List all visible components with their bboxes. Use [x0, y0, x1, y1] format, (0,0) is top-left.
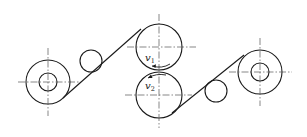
- rewind-roll: [229, 38, 292, 106]
- nip-roller-pair: v1 v2: [125, 14, 196, 128]
- web-left-segment: [63, 29, 141, 98]
- roller-web-diagram: v1 v2: [0, 0, 307, 137]
- right-idler-roller: [205, 80, 227, 102]
- label-v1: v1: [145, 52, 155, 65]
- left-idler-roller: [80, 50, 102, 72]
- unwind-roll: [18, 48, 80, 116]
- label-v2: v2: [145, 80, 155, 93]
